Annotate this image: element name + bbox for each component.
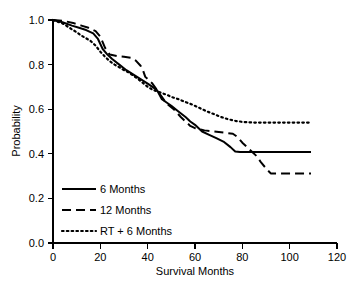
survival-curve-chart: 0.00.20.40.60.81.0 020406080100120 Proba… — [0, 0, 351, 287]
y-tick-label: 0.8 — [29, 59, 44, 71]
y-axis-title: Probability — [10, 105, 22, 157]
y-tick-label: 1.0 — [29, 14, 44, 26]
y-tick-label: 0.2 — [29, 192, 44, 204]
legend-label: 12 Months — [100, 204, 152, 216]
x-tick-label: 120 — [328, 251, 346, 263]
legend-label: 6 Months — [100, 183, 146, 195]
series-curve-rt-6-months — [53, 20, 311, 123]
chart-canvas: 0.00.20.40.60.81.0 020406080100120 Proba… — [0, 0, 351, 287]
y-tick-label: 0.0 — [29, 237, 44, 249]
x-tick-label: 20 — [94, 251, 106, 263]
y-tick-label: 0.6 — [29, 103, 44, 115]
x-axis-title: Survival Months — [156, 265, 235, 277]
legend-label: RT + 6 Months — [100, 225, 173, 237]
x-tick-label: 100 — [280, 251, 298, 263]
series-curve-6-months — [53, 20, 311, 152]
x-tick-group: 020406080100120 — [50, 243, 346, 263]
y-tick-label: 0.4 — [29, 148, 44, 160]
legend: 6 Months12 MonthsRT + 6 Months — [62, 183, 173, 237]
y-tick-group: 0.00.20.40.60.81.0 — [29, 14, 53, 249]
series-group — [53, 20, 311, 173]
x-tick-label: 40 — [142, 251, 154, 263]
x-tick-label: 0 — [50, 251, 56, 263]
x-tick-label: 80 — [236, 251, 248, 263]
x-tick-label: 60 — [189, 251, 201, 263]
